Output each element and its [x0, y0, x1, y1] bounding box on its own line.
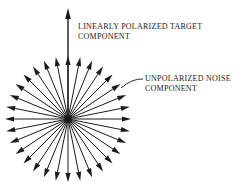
noise-component-label-line1: UNPOLARIZED NOISE	[145, 74, 231, 84]
noise-ray-5-head	[96, 67, 103, 76]
noise-ray-26-head	[86, 168, 92, 177]
noise-ray-20-shaft	[30, 119, 68, 157]
noise-component-label: UNPOLARIZED NOISE COMPONENT	[145, 74, 231, 94]
noise-ray-25-head	[76, 171, 81, 180]
noise-ray-16-head	[5, 116, 14, 121]
noise-ray-1-head	[120, 106, 129, 111]
noise-ray-21-head	[33, 162, 40, 171]
noise-ray-2-head	[117, 95, 126, 101]
noise-ray-7-head	[76, 57, 81, 66]
noise-ray-22-head	[44, 168, 50, 177]
noise-ray-12-shaft	[30, 81, 68, 119]
noise-ray-10-head	[44, 61, 50, 70]
noise-ray-29-head	[111, 147, 120, 154]
noise-ray-15-head	[6, 106, 15, 111]
noise-ray-11-head	[33, 67, 40, 76]
noise-ray-18-head	[10, 137, 19, 143]
target-component-label: LINEARLY POLARIZED TARGET COMPONENT	[78, 22, 202, 42]
noise-ray-27-head	[96, 162, 103, 171]
noise-ray-4-shaft	[68, 81, 106, 119]
noise-ray-0-head	[122, 116, 131, 121]
noise-ray-3-head	[111, 84, 120, 91]
target-arrow-head	[65, 8, 71, 19]
noise-ray-6-head	[86, 61, 92, 70]
noise-ray-17-head	[6, 127, 15, 132]
noise-ray-13-head	[16, 84, 25, 91]
noise-ray-30-head	[117, 137, 126, 143]
leader-curve	[121, 79, 143, 88]
target-component-label-line2: COMPONENT	[78, 32, 202, 42]
noise-ray-23-head	[55, 171, 60, 180]
noise-ray-24-head	[65, 173, 70, 182]
noise-label-leader-line	[121, 79, 143, 88]
noise-component-label-line2: COMPONENT	[145, 84, 231, 94]
noise-ray-31-head	[120, 127, 129, 132]
noise-ray-19-head	[16, 147, 25, 154]
noise-ray-9-head	[55, 57, 60, 66]
target-component-label-line1: LINEARLY POLARIZED TARGET	[78, 22, 202, 32]
noise-ray-28-shaft	[68, 119, 106, 157]
figure-canvas: LINEARLY POLARIZED TARGET COMPONENT UNPO…	[0, 0, 249, 190]
noise-ray-14-head	[10, 95, 19, 101]
